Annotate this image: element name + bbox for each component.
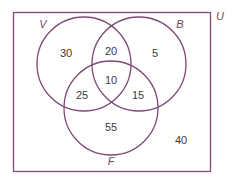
region-v-b-f: 10 [105,74,117,86]
venn-diagram: U V B F 30 20 5 10 25 15 55 40 [0,0,232,177]
region-v-only: 30 [60,47,72,59]
universe-label: U [216,10,224,22]
region-v-and-b: 20 [105,45,117,57]
set-f-label: F [108,155,116,167]
region-b-and-f: 15 [132,89,144,101]
universe-rectangle [14,13,211,172]
region-outside: 40 [175,134,187,146]
set-v-label: V [39,18,48,30]
region-b-only: 5 [152,47,158,59]
region-v-and-f: 25 [76,89,88,101]
set-b-label: B [176,18,183,30]
region-f-only: 55 [105,121,117,133]
